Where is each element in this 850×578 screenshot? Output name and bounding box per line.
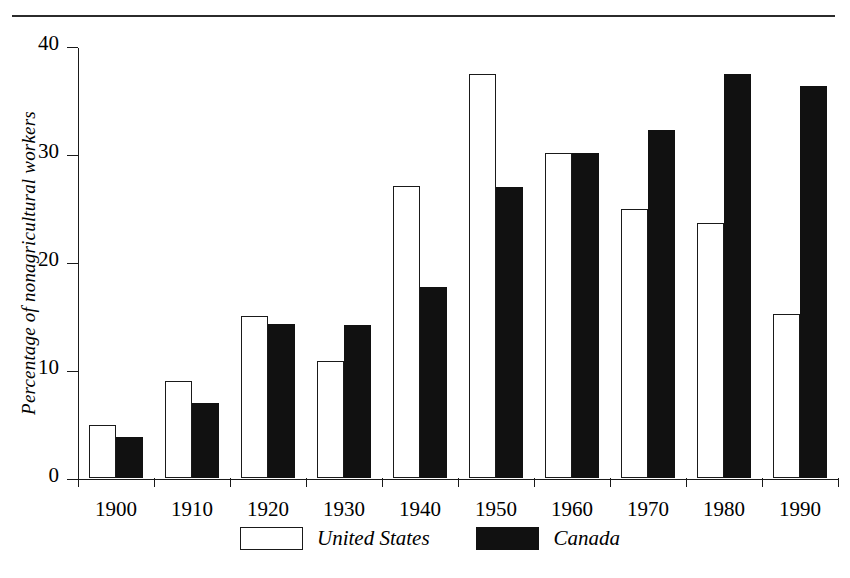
top-rule-divider	[12, 15, 835, 17]
bar-group	[317, 46, 371, 478]
x-axis-tick	[762, 478, 763, 487]
bar-canada-1970	[648, 130, 675, 478]
x-axis-tick-label: 1990	[779, 499, 821, 520]
bar-united-states-1940	[393, 186, 420, 478]
bar-united-states-1910	[165, 381, 192, 478]
bar-group	[773, 46, 827, 478]
x-axis-tick-label: 1900	[95, 499, 137, 520]
y-axis-tick: 20	[67, 263, 78, 264]
bar-united-states-1930	[317, 361, 344, 478]
x-axis-tick-label: 1930	[323, 499, 365, 520]
bar-canada-1950	[496, 187, 523, 478]
y-axis-tick-label: 40	[38, 33, 59, 54]
y-axis-tick: 40	[67, 47, 78, 48]
bar-canada-1900	[116, 437, 143, 478]
bar-united-states-1900	[89, 425, 116, 478]
x-axis-tick	[78, 478, 79, 487]
y-axis-tick-label: 30	[38, 141, 59, 162]
bar-united-states-1960	[545, 153, 572, 478]
x-axis-tick	[382, 478, 383, 487]
x-axis-tick	[686, 478, 687, 487]
bar-group	[469, 46, 523, 478]
y-axis-tick: 0	[67, 479, 78, 480]
y-axis-tick: 30	[67, 155, 78, 156]
bar-canada-1940	[420, 287, 447, 478]
x-axis-tick	[306, 478, 307, 487]
y-axis-tick-label: 10	[38, 357, 59, 378]
x-axis-tick	[610, 478, 611, 487]
filled-rect-swatch-icon	[476, 527, 539, 550]
bar-group	[545, 46, 599, 478]
x-axis-tick-label: 1950	[475, 499, 517, 520]
legend-label-united-states: United States	[317, 528, 430, 549]
x-axis-tick-label: 1960	[551, 499, 593, 520]
x-axis-tick-label: 1910	[171, 499, 213, 520]
bar-united-states-1980	[697, 223, 724, 478]
y-axis-tick-label: 20	[38, 249, 59, 270]
x-axis-tick	[230, 478, 231, 487]
bar-united-states-1990	[773, 314, 800, 478]
x-axis-tick-label: 1980	[703, 499, 745, 520]
bar-canada-1910	[192, 403, 219, 478]
chart-legend: United States Canada	[240, 527, 620, 550]
x-axis-tick	[154, 478, 155, 487]
legend-label-canada: Canada	[553, 528, 620, 549]
x-axis-tick-label: 1970	[627, 499, 669, 520]
bar-canada-1920	[268, 324, 295, 478]
x-axis-tick	[838, 478, 839, 487]
hollow-rect-swatch-icon	[240, 527, 303, 550]
plot-area: 010203040 190019101920193019401950196019…	[78, 46, 840, 480]
legend-entry-canada: Canada	[476, 527, 620, 550]
bars-container: 1900191019201930194019501960197019801990	[78, 46, 838, 478]
bar-group	[393, 46, 447, 478]
bar-canada-1960	[572, 153, 599, 478]
bar-group	[89, 46, 143, 478]
y-axis-tick-label: 0	[49, 465, 60, 486]
bar-united-states-1970	[621, 209, 648, 478]
bar-group	[241, 46, 295, 478]
bar-group	[165, 46, 219, 478]
bar-united-states-1950	[469, 74, 496, 478]
bar-group	[621, 46, 675, 478]
bar-canada-1990	[800, 86, 827, 478]
bar-canada-1980	[724, 74, 751, 478]
x-axis-tick-label: 1920	[247, 499, 289, 520]
bar-chart-figure: Percentage of nonagricultural workers 01…	[0, 0, 850, 578]
bar-group	[697, 46, 751, 478]
x-axis-tick	[458, 478, 459, 487]
x-axis-tick-label: 1940	[399, 499, 441, 520]
y-axis-tick: 10	[67, 371, 78, 372]
bar-united-states-1920	[241, 316, 268, 478]
bar-canada-1930	[344, 325, 371, 478]
legend-entry-united-states: United States	[240, 527, 430, 550]
x-axis-tick	[534, 478, 535, 487]
